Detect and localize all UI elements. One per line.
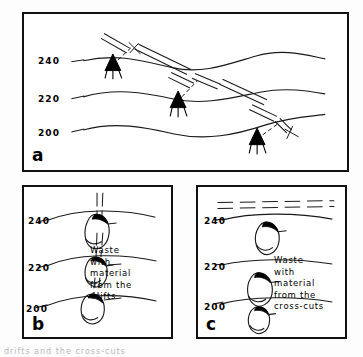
- drift-double-line-220: [192, 73, 221, 89]
- leader-tick-240: [71, 60, 84, 62]
- drift-double-line-upper: [101, 34, 130, 54]
- panel-c-contour-label-240: 240: [204, 216, 226, 226]
- panel-a-letter: a: [32, 147, 43, 164]
- contour-line-240: [221, 214, 332, 220]
- panel-c-annotation: Waste with material from the cross-cuts: [274, 255, 324, 313]
- panel-b-annotation-line-4: from the: [90, 280, 132, 292]
- panel-b: 240 220 200 Waste with material from the…: [22, 185, 173, 339]
- panel-c-annotation-line-1: Waste: [274, 255, 324, 267]
- panel-b-annotation-line-1: Waste: [90, 245, 132, 257]
- panel-c-annotation-line-2: with: [274, 267, 324, 279]
- panel-c-annotation-line-4: from the: [274, 290, 324, 302]
- panel-a-graphics: [24, 14, 347, 170]
- panel-b-contour-label-240: 240: [28, 216, 50, 226]
- panel-b-contour-label-220: 220: [28, 263, 50, 273]
- panel-a: 240 220 200 a: [22, 12, 349, 172]
- figure-root: 240 220 200 a: [0, 0, 363, 357]
- panel-b-annotation-line-2: with: [90, 257, 132, 269]
- waste-pile-symbol-200: [248, 307, 276, 334]
- panel-c: 240 220 200 Waste with material from the…: [196, 185, 347, 339]
- panel-a-contour-label-200: 200: [38, 128, 60, 138]
- panel-b-contour-label-200: 200: [26, 304, 48, 314]
- panel-a-contour-label-240: 240: [38, 56, 60, 66]
- figure-caption-fragment: drifts and the cross-cuts: [4, 347, 126, 357]
- panel-c-contour-label-200: 200: [204, 302, 226, 312]
- panel-a-contour-label-220: 220: [38, 94, 60, 104]
- panel-c-letter: c: [206, 316, 216, 333]
- leader-tick-200: [71, 129, 84, 132]
- panel-b-annotation-line-5: drifts: [90, 291, 132, 303]
- drift-double-line-lower: [220, 79, 277, 121]
- cross-cut-double-line: [217, 201, 334, 209]
- panel-c-annotation-line-5: cross-cuts: [274, 301, 324, 313]
- panel-c-contour-label-220: 220: [204, 262, 226, 272]
- waste-pile-symbol-240: [85, 214, 116, 248]
- contour-line-220: [83, 90, 325, 102]
- panel-b-letter: b: [32, 316, 44, 333]
- panel-b-annotation-line-3: material: [90, 268, 132, 280]
- waste-pile-symbol-240: [255, 222, 286, 255]
- panel-c-annotation-line-3: material: [274, 278, 324, 290]
- adit-portal-symbol-220: [170, 91, 187, 117]
- leader-tick-220: [71, 96, 84, 99]
- panel-b-annotation: Waste with material from the drifts: [90, 245, 132, 303]
- adit-portal-symbol-200: [249, 128, 266, 154]
